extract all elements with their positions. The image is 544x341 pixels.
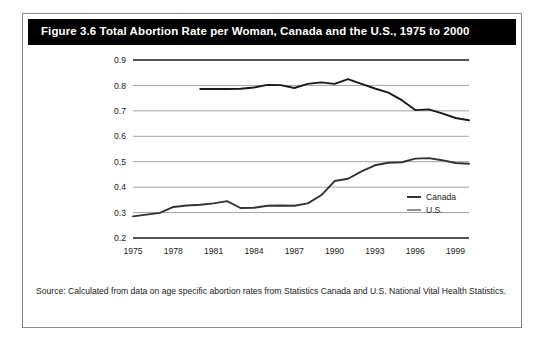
- figure-title-bar: Figure 3.6 Total Abortion Rate per Woman…: [28, 19, 516, 45]
- x-tick-label: 1999: [446, 246, 465, 256]
- y-tick-label: 0.6: [114, 131, 126, 141]
- x-tick-label: 1978: [164, 246, 183, 256]
- y-axis-tick-labels: 0.20.30.40.50.60.70.80.9: [114, 55, 126, 243]
- y-tick-label: 0.7: [114, 106, 126, 116]
- x-tick-label: 1975: [123, 246, 142, 256]
- y-tick-label: 0.2: [114, 233, 126, 243]
- y-tick-label: 0.4: [114, 182, 126, 192]
- legend-label: Canada: [426, 192, 456, 202]
- x-tick-label: 1981: [204, 246, 223, 256]
- x-tick-label: 1990: [325, 246, 344, 256]
- figure-title: Figure 3.6 Total Abortion Rate per Woman…: [41, 25, 469, 37]
- y-tick-label: 0.9: [114, 55, 126, 65]
- figure-container: Figure 3.6 Total Abortion Rate per Woman…: [22, 13, 522, 328]
- chart-legend: CanadaU.S.: [407, 192, 456, 215]
- y-tick-label: 0.8: [114, 81, 126, 91]
- x-axis-tick-labels: 197519781981198419871990199319961999: [123, 246, 465, 256]
- line-chart: 0.20.30.40.50.60.70.80.9 197519781981198…: [23, 48, 521, 280]
- x-tick-label: 1984: [244, 246, 263, 256]
- chart-plot-area: 0.20.30.40.50.60.70.80.9 197519781981198…: [23, 48, 521, 280]
- x-tick-label: 1996: [406, 246, 425, 256]
- x-tick-label: 1987: [285, 246, 304, 256]
- x-tick-label: 1993: [365, 246, 384, 256]
- source-note: Source: Calculated from data on age spec…: [36, 285, 510, 298]
- y-tick-label: 0.3: [114, 208, 126, 218]
- y-tick-label: 0.5: [114, 157, 126, 167]
- data-series: [133, 79, 469, 216]
- legend-label: U.S.: [426, 205, 443, 215]
